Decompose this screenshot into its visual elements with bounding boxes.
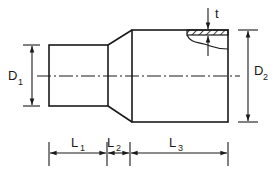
label-D1-subscript: 1 [18, 77, 23, 87]
label-L1: L [71, 135, 78, 150]
label-L2: L [107, 135, 114, 150]
label-D2-subscript: 2 [263, 72, 268, 82]
label-D2: D [254, 63, 263, 78]
label-L2-subscript: 2 [116, 143, 121, 153]
technical-drawing: D 1 D 2 t L 1 L 2 L 3 [0, 0, 278, 178]
taper-top-edge [108, 30, 132, 45]
label-D1: D [8, 68, 17, 83]
label-L3: L [169, 135, 176, 150]
hatched-wall [187, 30, 228, 35]
label-L1-subscript: 1 [80, 143, 85, 153]
label-t: t [215, 6, 219, 21]
taper-bottom-edge [108, 106, 132, 122]
label-L3-subscript: 3 [178, 143, 183, 153]
